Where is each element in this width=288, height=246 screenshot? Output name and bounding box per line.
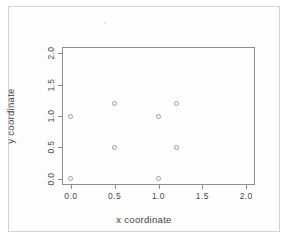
data-point [112,145,117,150]
y-tick-label: 1.5 [46,78,56,91]
y-tick-label: 0.5 [46,141,56,154]
y-tick-mark [58,85,62,86]
y-tick-label: 2.0 [46,47,56,60]
data-point [174,145,179,150]
x-tick-label: 0.0 [64,191,77,201]
x-axis-label: x coordinate [0,214,288,225]
data-point [68,114,73,119]
x-tick-mark [159,185,160,189]
x-tick-label: 2.0 [240,191,253,201]
y-tick-mark [58,53,62,54]
scatter-plot-figure: 0.00.51.01.52.0 0.00.51.01.52.0 x coordi… [0,0,288,246]
x-tick-mark [246,185,247,189]
x-tick-label: 0.5 [108,191,121,201]
x-tick-label: 1.5 [196,191,209,201]
y-tick-mark [58,179,62,180]
y-tick-label: 0.0 [46,172,56,185]
y-axis-label: y coordinate [5,88,16,143]
x-tick-mark [202,185,203,189]
y-tick-label: 1.0 [46,109,56,122]
data-point [156,114,161,119]
x-tick-label: 1.0 [152,191,165,201]
x-tick-mark [71,185,72,189]
scan-speck-artifact [104,22,106,24]
y-tick-mark [58,147,62,148]
y-tick-mark [58,116,62,117]
x-tick-mark [115,185,116,189]
plot-surface: 0.00.51.01.52.0 0.00.51.01.52.0 x coordi… [0,0,288,246]
data-point [174,101,179,106]
